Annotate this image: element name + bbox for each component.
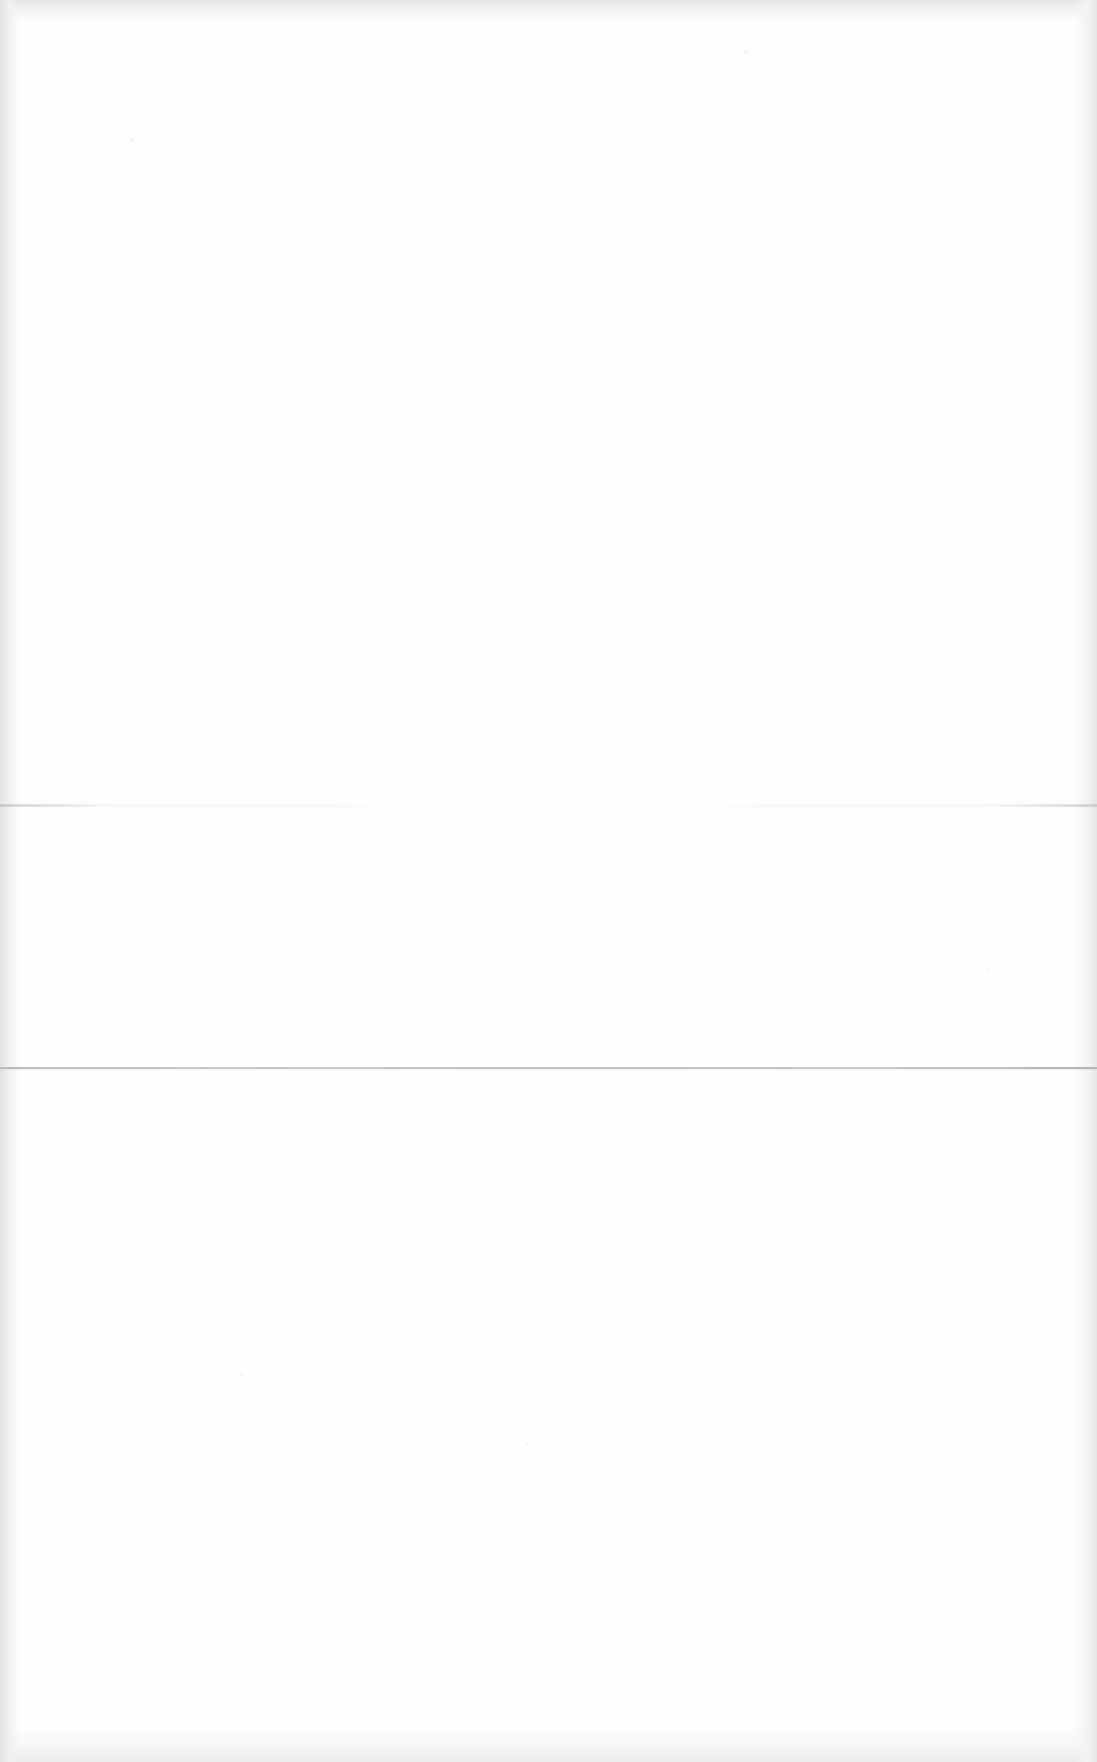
paper-grain <box>0 0 1097 1762</box>
scanned-blank-page <box>0 0 1097 1762</box>
fold-line-lower <box>0 1067 1097 1069</box>
fold-line-upper <box>0 804 1097 807</box>
